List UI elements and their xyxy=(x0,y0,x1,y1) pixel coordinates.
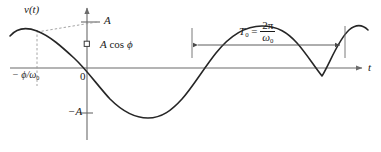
period-denominator-subscript: 0 xyxy=(270,37,273,44)
peak-to-amplitude-dashed-line xyxy=(37,22,97,32)
period-equals-sign: = xyxy=(251,25,257,37)
phase-intercept-phi: ϕ xyxy=(127,38,133,50)
period-denominator: ω0 xyxy=(260,32,275,44)
sinusoid-figure: v(t) A −A 0 A cos ϕ − ϕ/ω0 t T0 = 2π ω0 xyxy=(0,0,381,152)
signal-label: v(t) xyxy=(24,4,39,15)
period-fraction: 2π ω0 xyxy=(260,20,275,44)
origin-label: 0 xyxy=(80,71,86,82)
phase-time-expression: − ϕ/ω xyxy=(12,69,36,80)
phase-intercept-label: A cos ϕ xyxy=(100,39,133,50)
phase-intercept-amplitude: A xyxy=(100,38,107,50)
phase-time-label: − ϕ/ω0 xyxy=(12,70,39,81)
period-formula: T0 = 2π ω0 xyxy=(239,20,275,44)
phase-intercept-marker xyxy=(84,41,89,46)
figure-canvas xyxy=(0,0,381,152)
time-axis-label: t xyxy=(368,62,371,73)
phase-time-subscript: 0 xyxy=(36,74,39,81)
period-symbol-subscript: 0 xyxy=(245,31,248,38)
waveform-curve xyxy=(10,26,368,119)
negative-amplitude-label: −A xyxy=(68,106,82,117)
positive-amplitude-label: A xyxy=(104,15,111,26)
